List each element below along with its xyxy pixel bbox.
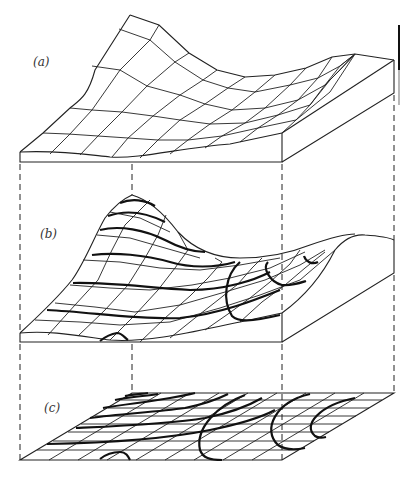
panel-b: (b) bbox=[20, 195, 394, 342]
panel-b-block bbox=[20, 195, 394, 342]
panel-b-grid bbox=[35, 200, 335, 342]
panel-b-label: (b) bbox=[40, 227, 57, 241]
panel-a-label: (a) bbox=[33, 55, 50, 69]
panel-a-block bbox=[20, 15, 394, 162]
panel-c: (c) bbox=[20, 393, 394, 460]
surface-contour-diagram: (a) bbox=[0, 0, 413, 478]
panel-a-grid bbox=[43, 25, 355, 158]
panel-a: (a) bbox=[20, 15, 394, 162]
panel-c-label: (c) bbox=[44, 401, 60, 415]
panel-b-contours bbox=[47, 200, 318, 341]
